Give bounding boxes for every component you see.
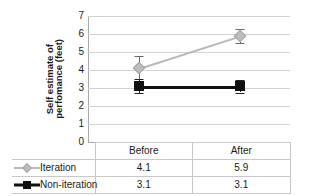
- gridline-4: [88, 70, 290, 71]
- error-cap-iteration-lower: [235, 43, 244, 44]
- cell-iteration-before: 4.1: [95, 160, 193, 177]
- error-cap-iteration-upper: [134, 56, 143, 57]
- legend-swatch-noniteration-icon: [14, 180, 40, 191]
- legend-item-iteration[interactable]: Iteration: [12, 160, 95, 177]
- table-header-row: Before After: [12, 143, 290, 160]
- y-tick-label-2: 2: [70, 101, 84, 111]
- table-corner-cell: [12, 143, 95, 160]
- y-tick-label-5: 5: [70, 47, 84, 57]
- legend-item-noniteration[interactable]: Non-iteration: [12, 177, 95, 194]
- y-axis-tick-labels: 76543210: [68, 16, 84, 142]
- column-header-before: Before: [95, 143, 193, 160]
- table-row: Non-iteration 3.1 3.1: [12, 177, 290, 194]
- data-point-noniteration-before: [134, 81, 144, 91]
- error-cap-noniteration-lower: [235, 93, 244, 94]
- y-tick-label-3: 3: [70, 83, 84, 93]
- y-tick-label-7: 7: [70, 11, 84, 21]
- y-axis-title-line-2: perfomance (feet): [54, 39, 64, 119]
- legend-label-noniteration: Non-iteration: [40, 180, 97, 190]
- table-row: Iteration 4.1 5.9: [12, 160, 290, 177]
- gridline-1: [88, 124, 290, 125]
- plot-area: [88, 16, 290, 142]
- y-tick-label-4: 4: [70, 65, 84, 75]
- y-tick-label-1: 1: [70, 119, 84, 129]
- legend-label-iteration: Iteration: [40, 163, 76, 173]
- data-table: Before After Iteration 4.1 5.9: [12, 142, 290, 190]
- gridline-2: [88, 106, 290, 107]
- gridline-7: [88, 16, 290, 17]
- y-axis-title: Self estimate of perfomance (feet): [36, 16, 72, 142]
- cell-noniteration-after: 3.1: [193, 177, 291, 194]
- legend-swatch-iteration-icon: [14, 163, 40, 174]
- error-cap-noniteration-upper: [134, 79, 143, 80]
- data-point-noniteration-after: [235, 81, 245, 91]
- series-line-noniteration: [139, 86, 240, 89]
- gridline-6: [88, 34, 290, 35]
- y-tick-label-6: 6: [70, 29, 84, 39]
- column-header-after: After: [193, 143, 291, 160]
- cell-iteration-after: 5.9: [193, 160, 291, 177]
- cell-noniteration-before: 3.1: [95, 177, 193, 194]
- error-cap-noniteration-lower: [134, 93, 143, 94]
- chart-figure: Self estimate of perfomance (feet) 76543…: [0, 0, 313, 196]
